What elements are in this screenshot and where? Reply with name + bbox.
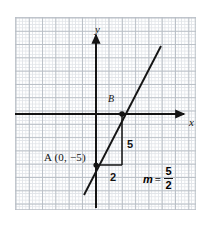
point-b-label: B (108, 94, 114, 104)
point-b-marker (119, 111, 125, 117)
point-a-label: A (0, −5) (44, 152, 86, 163)
equals-sign: = (155, 173, 161, 185)
slope-variable: m (143, 173, 153, 185)
point-a-marker (93, 162, 98, 167)
x-axis-label: x (189, 117, 194, 128)
graph-vector-layer (0, 0, 211, 226)
slope-annotation: m = 5 2 (143, 166, 173, 191)
y-axis-label: y (95, 24, 100, 35)
graph-figure: y x B A (0, −5) 5 2 m = 5 2 (0, 0, 211, 226)
fraction-numerator: 5 (166, 166, 172, 177)
rise-label: 5 (127, 139, 133, 150)
run-label: 2 (110, 172, 116, 183)
fraction-denominator: 2 (166, 180, 172, 191)
slope-fraction: 5 2 (164, 166, 173, 191)
